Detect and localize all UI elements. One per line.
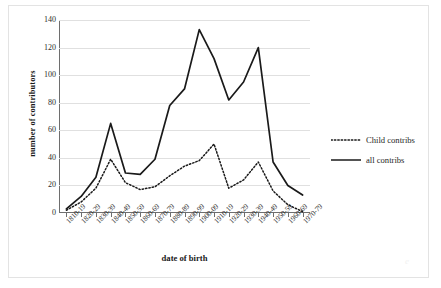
chart-figure: number of contributors 02040608010012014… [8,5,429,278]
legend-swatch-icon [331,156,361,164]
series-line-all-contribs [66,30,302,209]
y-tick-label: 60 [16,126,56,134]
y-tick-label: 140 [16,16,56,24]
plot-area: 020406080100120140 1810-191820-291830-39… [59,20,310,213]
series-lines [59,20,310,213]
y-tick-label: 80 [16,99,56,107]
legend-swatch-icon [331,136,361,144]
y-tick-label: 100 [16,71,56,79]
legend-label: Child contribs [366,135,415,145]
y-tick-label: 120 [16,44,56,52]
legend-item-child-contribs[interactable]: Child contribs [331,130,426,150]
y-tick-label: 40 [16,154,56,162]
legend-label: all contribs [366,155,404,165]
x-axis-title: date of birth [59,253,310,263]
legend-item-all-contribs[interactable]: all contribs [331,150,426,170]
y-tick-label: 20 [16,181,56,189]
y-tick-label: 0 [16,209,56,217]
chart-legend: Child contribsall contribs [331,130,426,170]
watermark: e [405,256,409,266]
y-axis-title: number of contributors [28,44,37,184]
